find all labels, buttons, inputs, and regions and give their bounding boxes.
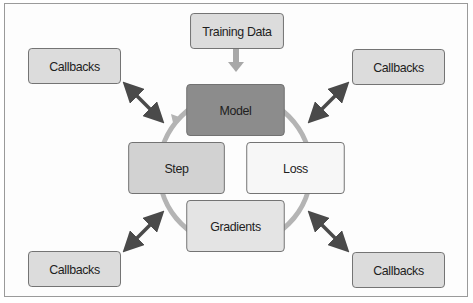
double-arrow-top-left [130,89,157,116]
gradients-node: Gradients [186,200,284,252]
double-arrow-bottom-right [315,218,342,245]
callbacks-label: Callbacks [373,263,424,278]
double-arrow-top-right [315,89,342,116]
callbacks-node-bottom-left: Callbacks [28,251,121,287]
loss-node: Loss [246,142,344,194]
loss-label: Loss [283,161,308,176]
model-node: Model [186,84,284,136]
callbacks-node-top-left: Callbacks [28,48,121,84]
double-arrow-bottom-left [130,218,157,245]
callbacks-label: Callbacks [49,59,100,74]
callbacks-label: Callbacks [373,60,424,75]
gradients-label: Gradients [210,219,261,234]
callbacks-node-top-right: Callbacks [352,49,445,85]
callbacks-label: Callbacks [49,262,100,277]
step-node: Step [128,142,225,194]
step-label: Step [164,161,188,176]
training-data-label: Training Data [202,24,271,39]
training-data-arrow [228,48,244,72]
model-label: Model [220,103,252,118]
callbacks-node-bottom-right: Callbacks [352,252,445,288]
training-data-node: Training Data [190,13,284,49]
